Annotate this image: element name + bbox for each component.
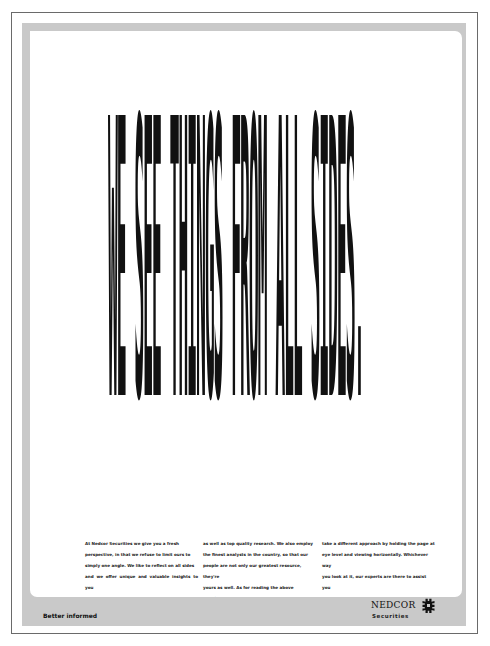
body-column-1: At Nedcor Securities we give you a fresh… <box>85 538 198 593</box>
body-line: as well as top quality research. We also… <box>203 538 316 549</box>
tagline: Better informed <box>43 612 97 619</box>
body-line: in making your best investment decision. <box>322 593 435 597</box>
logo-wordmark: NEDCOR <box>371 600 416 610</box>
headline-area: WE SEE THINGS FROM ALL SIDES. <box>108 83 396 441</box>
body-line: simply one angle. We like to reflect on … <box>85 560 198 571</box>
body-line: you look at it, our experts are there to… <box>322 571 435 593</box>
nedcor-cog-icon <box>421 598 436 613</box>
body-line: and we offer unique and valuable insight… <box>85 571 198 593</box>
body-column-2: as well as top quality research. We also… <box>203 538 316 597</box>
body-line: eye level and viewing horizontally. Whic… <box>322 549 435 571</box>
gray-frame: WE SEE THINGS FROM ALL SIDES. At Nedcor … <box>22 23 466 626</box>
content-panel: WE SEE THINGS FROM ALL SIDES. At Nedcor … <box>30 31 462 597</box>
body-line: At Nedcor Securities we give you a fresh <box>85 538 198 549</box>
body-line: the finest analysts in the country, so t… <box>203 549 316 560</box>
stretched-headline: WE SEE THINGS FROM ALL SIDES. <box>108 83 363 443</box>
body-line: perspective, in that we refuse to limit … <box>85 549 198 560</box>
page-border: WE SEE THINGS FROM ALL SIDES. At Nedcor … <box>11 12 478 634</box>
body-line: people are not only our greatest resourc… <box>203 560 316 582</box>
logo-subtitle: Securities <box>372 613 409 619</box>
body-column-3: take a different approach by holding the… <box>322 538 435 597</box>
body-line: take a different approach by holding the… <box>322 538 435 549</box>
nedcor-logo: NEDCOR Securities <box>371 598 441 624</box>
body-line: yours as well. As for reading the above … <box>203 582 316 597</box>
